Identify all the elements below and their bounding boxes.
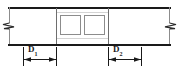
d2-arrowhead-right bbox=[134, 57, 141, 62]
dimension-label-d1: D1 bbox=[28, 45, 38, 56]
diagram-canvas bbox=[0, 0, 179, 73]
dimension-label-d2: D2 bbox=[113, 45, 123, 56]
dimension-label-d2-subscript: 2 bbox=[120, 51, 123, 57]
dimension-label-d2-base: D bbox=[113, 44, 120, 54]
d2-arrowhead-left bbox=[109, 57, 116, 62]
opening-square-2 bbox=[85, 16, 105, 35]
dimension-label-d1-base: D bbox=[28, 44, 35, 54]
d1-arrowhead-right bbox=[49, 57, 56, 62]
dimension-label-d1-subscript: 1 bbox=[35, 51, 38, 57]
d1-arrowhead-left bbox=[24, 57, 31, 62]
beam-section-diagram: D1 D2 bbox=[0, 0, 179, 73]
opening-square-1 bbox=[61, 16, 81, 35]
